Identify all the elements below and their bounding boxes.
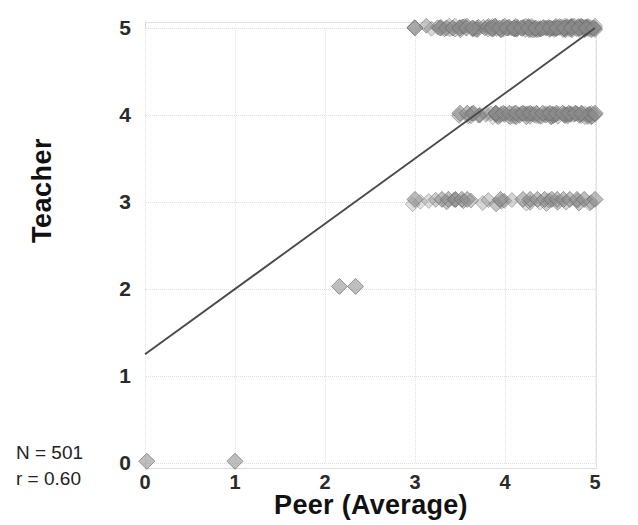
data-point-marker [564, 18, 579, 33]
data-point-marker [428, 192, 443, 207]
data-point-marker [461, 109, 476, 124]
data-point-marker [566, 107, 581, 122]
statistics-annotation: N = 501 r = 0.60 [16, 440, 83, 491]
data-point-marker [508, 105, 523, 120]
data-point-marker [465, 22, 480, 37]
data-point-marker [569, 21, 584, 36]
y-tick-label: 4 [97, 104, 131, 125]
data-point-marker [572, 108, 587, 123]
data-point-marker [508, 105, 524, 121]
data-point-marker [546, 108, 561, 123]
gridline-vertical [145, 28, 146, 463]
data-point-marker [557, 106, 572, 121]
data-point-marker [588, 107, 603, 122]
correlation-text: r = 0.60 [16, 466, 83, 492]
x-tick-label: 5 [580, 472, 610, 492]
data-point-marker [481, 22, 496, 37]
gridline-horizontal [145, 289, 595, 290]
data-point-marker [348, 278, 364, 294]
data-point-marker [588, 18, 603, 33]
data-point-marker [544, 110, 559, 125]
data-point-marker [542, 105, 558, 121]
x-tick-label: 0 [130, 472, 160, 492]
data-point-marker [581, 19, 596, 34]
data-point-marker [558, 23, 573, 38]
data-point-marker [495, 105, 511, 121]
data-point-marker [557, 108, 572, 123]
data-point-marker [546, 109, 561, 124]
data-point-marker [460, 18, 475, 33]
data-point-marker [563, 106, 578, 121]
data-point-marker [531, 23, 546, 38]
data-point-marker [529, 22, 544, 37]
data-point-marker [331, 278, 347, 294]
data-point-marker [463, 193, 478, 208]
data-point-marker [505, 109, 520, 124]
data-point-marker [467, 21, 482, 36]
data-point-marker [580, 107, 595, 122]
data-point-marker [569, 106, 584, 121]
data-point-marker [545, 21, 560, 36]
data-point-marker [557, 18, 572, 33]
data-point-marker [471, 108, 486, 123]
data-point-marker [434, 21, 449, 36]
data-point-marker [515, 22, 530, 37]
data-point-marker [483, 106, 498, 121]
data-point-marker [489, 107, 504, 122]
data-point-marker [557, 109, 572, 124]
data-point-marker [557, 107, 572, 122]
x-axis-title: Peer (Average) [145, 490, 597, 521]
data-point-marker [539, 108, 554, 123]
data-point-marker [529, 106, 544, 121]
x-tick-label: 1 [220, 472, 250, 492]
data-point-marker [405, 197, 420, 212]
data-point-marker [493, 107, 508, 122]
data-markers-layer [0, 0, 638, 525]
data-point-marker [529, 109, 544, 124]
data-point-marker [453, 23, 468, 38]
data-point-marker [509, 22, 524, 37]
plot-area [145, 28, 595, 463]
x-tick-label: 3 [400, 472, 430, 492]
data-point-marker [563, 22, 578, 37]
data-point-marker [582, 106, 597, 121]
x-tick-label: 2 [310, 472, 340, 492]
data-point-marker [493, 23, 508, 38]
data-point-marker [509, 110, 524, 125]
data-point-marker [544, 191, 560, 207]
data-point-marker [533, 109, 548, 124]
data-point-marker [569, 191, 585, 207]
data-point-marker [564, 106, 579, 121]
data-point-marker [581, 107, 596, 122]
gridline-horizontal [145, 28, 595, 29]
data-point-marker [464, 106, 479, 121]
data-point-marker [567, 105, 583, 121]
gridline-horizontal [145, 463, 595, 464]
data-point-marker [459, 191, 475, 207]
data-point-marker [574, 105, 590, 121]
data-point-marker [551, 106, 566, 121]
data-point-marker [472, 107, 487, 122]
data-point-marker [547, 107, 562, 122]
data-point-marker [549, 107, 564, 122]
data-point-marker [501, 21, 516, 36]
data-point-marker [539, 21, 554, 36]
data-point-marker [466, 105, 482, 121]
data-point-marker [557, 22, 572, 37]
y-axis-title: Teacher [27, 111, 58, 271]
data-point-marker [419, 18, 434, 33]
data-point-marker [580, 21, 595, 36]
data-point-marker [524, 18, 539, 33]
data-point-marker [587, 105, 603, 121]
data-point-marker [442, 22, 457, 37]
data-point-marker [227, 453, 243, 469]
data-point-marker [452, 105, 468, 121]
data-point-marker [488, 18, 503, 33]
data-point-marker [535, 105, 551, 121]
data-point-marker [452, 108, 467, 123]
data-point-marker [523, 22, 538, 37]
data-point-marker [578, 21, 593, 36]
data-point-marker [573, 107, 588, 122]
data-point-marker [496, 22, 511, 37]
data-point-marker [555, 105, 571, 121]
